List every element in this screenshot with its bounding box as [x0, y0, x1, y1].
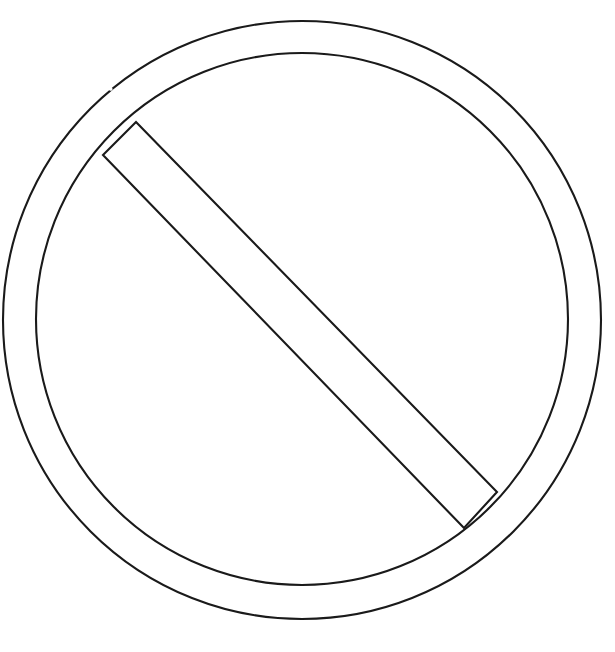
gap-outer-upper-right	[509, 98, 515, 100]
background-rect	[0, 0, 615, 652]
prohibition-sign-illustration	[0, 0, 615, 652]
gap-inner-upper-right	[432, 92, 438, 94]
drawing-canvas	[0, 0, 615, 652]
gap-outer-upper-left	[105, 87, 111, 89]
gap-inner-upper-left	[188, 82, 194, 84]
